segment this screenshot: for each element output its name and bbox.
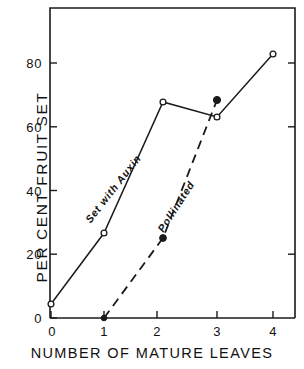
chart-figure: PER CENT FRUIT SET NUMBER OF MATURE LEAV… <box>0 0 304 369</box>
data-point-filled <box>213 96 220 103</box>
x-axis-ticks <box>51 311 273 318</box>
series-line-auxin <box>51 54 273 304</box>
data-point-open <box>101 230 107 236</box>
data-point-filled <box>160 235 167 242</box>
y-axis-ticks <box>50 63 295 318</box>
data-point-open <box>270 51 276 57</box>
data-point-filled <box>101 315 107 321</box>
data-point-open <box>214 114 220 120</box>
series-line-pollinated <box>104 100 217 318</box>
series-markers-pollinated <box>101 96 220 320</box>
data-point-open <box>48 301 54 307</box>
axis-frame <box>50 8 295 318</box>
plot-area <box>0 0 304 369</box>
data-point-open <box>160 99 166 105</box>
